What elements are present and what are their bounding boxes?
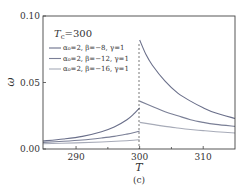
y-tick-label: 0.10	[20, 11, 40, 21]
x-tick-label: 310	[195, 152, 212, 162]
legend-items: α₀=2, β=−8, γ=1α₀=2, β=−12, γ=1α₀=2, β=−…	[49, 44, 129, 73]
x-tick-label: 290	[67, 152, 84, 162]
legend-title: Tc=300	[54, 28, 92, 41]
legend-label: α₀=2, β=−12, γ=1	[63, 55, 129, 63]
axis-ticks: 2903003100.000.050.10	[20, 11, 212, 162]
y-tick-label: 0.00	[20, 144, 40, 154]
x-axis-label: T	[135, 161, 144, 174]
y-axis-label: ω	[4, 77, 17, 86]
series-line-1-below-tc	[43, 108, 140, 141]
series-line-3-above-tc	[140, 122, 235, 133]
y-tick-label: 0.05	[20, 78, 40, 88]
legend-label: α₀=2, β=−8, γ=1	[63, 44, 125, 52]
legend-label: α₀=2, β=−16, γ=1	[63, 65, 129, 73]
figure-caption: (c)	[133, 175, 145, 185]
series-line-2-above-tc	[140, 101, 235, 126]
legend: Tc=300 α₀=2, β=−8, γ=1α₀=2, β=−12, γ=1α₀…	[49, 28, 129, 73]
chart: 2903003100.000.050.10 T ω (c) Tc=300 α₀=…	[0, 0, 245, 196]
